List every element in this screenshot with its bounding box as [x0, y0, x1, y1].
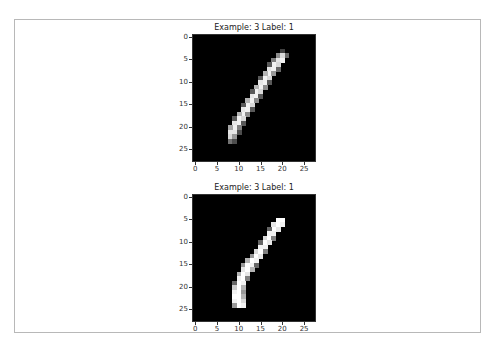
image-axes — [192, 34, 316, 162]
pixel — [254, 98, 259, 103]
y-tick-label: 5 — [174, 55, 188, 63]
pixel — [258, 94, 263, 99]
x-tick-label: 0 — [188, 325, 202, 333]
pixel — [258, 254, 263, 259]
pixel — [263, 249, 268, 254]
pixel — [280, 58, 285, 63]
x-tick-label: 20 — [275, 325, 289, 333]
y-tick-label: 20 — [174, 123, 188, 131]
panel-title: Example: 3 Label: 1 — [192, 23, 316, 32]
x-tick-label: 15 — [254, 325, 268, 333]
y-tick-label: 20 — [174, 283, 188, 291]
image-axes — [192, 194, 316, 322]
y-tick-label: 25 — [174, 145, 188, 153]
pixel — [263, 85, 268, 90]
x-tick-label: 10 — [232, 325, 246, 333]
y-tick-label: 10 — [174, 78, 188, 86]
pixel — [267, 80, 272, 85]
pixel — [232, 139, 237, 144]
x-tick-label: 25 — [297, 325, 311, 333]
x-tick-label: 5 — [210, 325, 224, 333]
y-tick-label: 0 — [174, 33, 188, 41]
pixel — [285, 53, 290, 58]
pixel — [245, 276, 250, 281]
pixel — [254, 263, 259, 268]
panel-title: Example: 3 Label: 1 — [192, 183, 316, 192]
y-tick-label: 5 — [174, 215, 188, 223]
pixel — [241, 121, 246, 126]
pixel — [237, 130, 242, 135]
pixel — [250, 267, 255, 272]
y-tick-label: 10 — [174, 238, 188, 246]
pixel — [245, 112, 250, 117]
pixel — [271, 236, 276, 241]
y-tick-label: 0 — [174, 193, 188, 201]
y-tick-label: 15 — [174, 260, 188, 268]
pixel — [276, 67, 281, 72]
pixel — [271, 71, 276, 76]
pixel — [276, 227, 281, 232]
pixel — [241, 303, 246, 308]
y-tick-label: 25 — [174, 305, 188, 313]
pixel — [280, 222, 285, 227]
pixel — [250, 107, 255, 112]
panel-example-2: Example: 3 Label: 1 05101520250510152025 — [0, 160, 495, 320]
y-tick-label: 15 — [174, 100, 188, 108]
pixel — [267, 240, 272, 245]
panel-example-1: Example: 3 Label: 1 05101520250510152025 — [0, 0, 495, 160]
